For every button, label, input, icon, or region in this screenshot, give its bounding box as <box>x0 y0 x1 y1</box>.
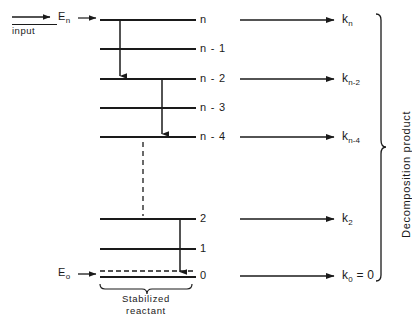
rate-label-kn: kn <box>342 12 353 28</box>
level-label-n-2-suffix: - 2 <box>207 72 226 84</box>
rate-label-k2-sub: 2 <box>348 218 352 227</box>
level-label-n-3-suffix: - 3 <box>207 101 226 113</box>
rate-label-kn-sub: n <box>348 19 352 28</box>
rate-label-kn-4: kn-4 <box>342 129 360 145</box>
cascade-arrows <box>120 20 180 272</box>
level-label-n-1-suffix: - 1 <box>207 42 226 54</box>
e0-label-base: E <box>58 266 66 278</box>
energy-level-lines <box>100 20 196 277</box>
rate-label-k0-eq: = 0 <box>353 268 375 282</box>
input-label: input <box>12 25 35 36</box>
rate-arrows <box>240 20 334 276</box>
level-label-1: 1 <box>200 242 207 254</box>
en-label: En <box>58 10 70 25</box>
decomposition-product-label: Decomposition product <box>400 111 412 238</box>
rate-label-kn-4-sub: n-4 <box>348 136 360 145</box>
rate-label-k2: k2 <box>342 211 353 227</box>
rate-label-kn-2: kn-2 <box>342 71 360 87</box>
level-label-n-4-suffix: - 4 <box>207 130 226 142</box>
level-label-n-1: n - 1 <box>200 42 226 54</box>
level-label-2: 2 <box>200 212 207 224</box>
level-label-n-3: n - 3 <box>200 101 226 113</box>
level-label-n-3-base: n <box>200 101 207 113</box>
stabilized-reactant-label-line1: Stabilized <box>100 293 192 304</box>
decomposition-product-brace <box>376 14 386 281</box>
input-arrow <box>12 17 57 25</box>
level-label-n-2-base: n <box>200 72 207 84</box>
stabilized-reactant-label-line2: reactant <box>100 305 192 316</box>
en-label-base: E <box>58 10 66 22</box>
rate-label-kn-2-sub: n-2 <box>348 78 360 87</box>
level-label-0-base: 0 <box>200 269 207 281</box>
energy-level-kinetics-diagram: input En Eo n n - 1 n - 2 n - 3 n - 4 2 … <box>0 0 412 318</box>
level-label-2-base: 2 <box>200 212 207 224</box>
en-label-sub: n <box>66 16 70 25</box>
level-label-1-base: 1 <box>200 242 207 254</box>
e0-label-sub: o <box>66 272 70 281</box>
level-label-n-1-base: n <box>200 42 207 54</box>
rate-label-k0: k0 = 0 <box>342 268 374 284</box>
level-label-n-base: n <box>200 13 207 25</box>
level-label-n: n <box>200 13 207 25</box>
level-label-0: 0 <box>200 269 207 281</box>
level-label-n-4: n - 4 <box>200 130 226 142</box>
e0-label: Eo <box>58 266 70 281</box>
level-label-n-4-base: n <box>200 130 207 142</box>
level-label-n-2: n - 2 <box>200 72 226 84</box>
